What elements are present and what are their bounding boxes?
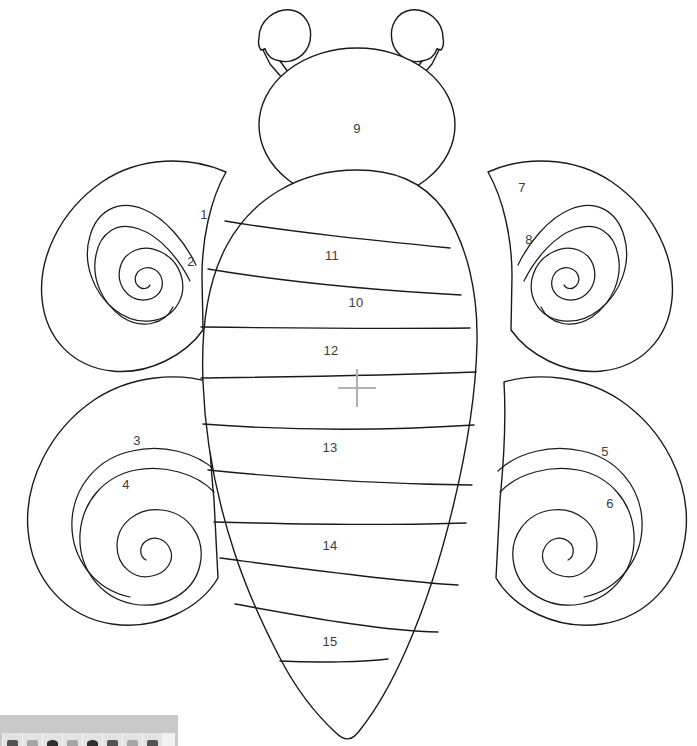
bee-line-drawing: 9 1 2 7 8 3 4 [0, 0, 697, 746]
region-label-14: 14 [323, 538, 338, 553]
abdomen-body: 11 10 12 13 14 15 [201, 170, 477, 739]
region-label-8: 8 [525, 232, 532, 247]
region-label-11: 11 [325, 248, 339, 263]
bottom-toolbar-fragment[interactable] [0, 715, 178, 746]
wing-upper-left: 1 2 [42, 161, 226, 371]
region-label-1: 1 [200, 207, 207, 222]
region-label-6: 6 [606, 496, 613, 511]
region-label-5: 5 [601, 444, 608, 459]
region-label-15: 15 [323, 634, 338, 649]
toolbar-button-4[interactable] [63, 733, 82, 746]
toolbar-button-8[interactable] [143, 733, 162, 746]
wing-lower-left: 3 4 [28, 377, 218, 625]
toolbar-button-3[interactable] [43, 733, 62, 746]
toolbar-button-6[interactable] [103, 733, 122, 746]
toolbar-button-5[interactable] [83, 733, 102, 746]
toolbar-button-7[interactable] [123, 733, 142, 746]
wing-lower-right: 5 6 [496, 377, 686, 625]
artwork-canvas: 9 1 2 7 8 3 4 [0, 0, 697, 746]
region-label-7: 7 [518, 180, 525, 195]
wing-upper-right: 7 8 [488, 161, 672, 371]
region-label-9: 9 [353, 121, 360, 136]
region-label-12: 12 [324, 343, 339, 358]
region-label-13: 13 [323, 440, 338, 455]
region-label-3: 3 [133, 433, 140, 448]
toolbar-button-2[interactable] [23, 733, 42, 746]
region-label-4: 4 [122, 477, 129, 492]
region-label-10: 10 [349, 295, 364, 310]
toolbar-button-1[interactable] [3, 733, 22, 746]
toolbar-button-strip[interactable] [2, 733, 175, 746]
region-label-2: 2 [187, 254, 194, 269]
